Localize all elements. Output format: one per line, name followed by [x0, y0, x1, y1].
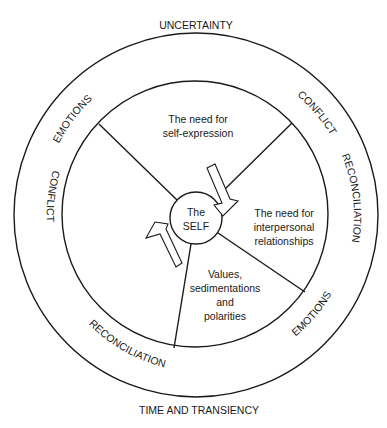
sector-values-sedimentations-polarities: Values, sedimentations and polarities: [190, 268, 261, 322]
svg-text:SELF: SELF: [183, 220, 209, 232]
svg-text:relationships: relationships: [255, 235, 314, 247]
svg-text:polarities: polarities: [204, 310, 246, 322]
self-model-diagram: UNCERTAINTY TIME AND TRANSIENCY EMOTIONS…: [0, 0, 387, 428]
sector-interpersonal-relationships: The need for interpersonal relationships: [254, 207, 315, 247]
ring-label-emotions-bottom-right: EMOTIONS: [289, 289, 333, 338]
svg-text:The need for: The need for: [168, 113, 228, 125]
divider-top-right: [224, 123, 292, 190]
ring-label-reconciliation-bottom: RECONCILIATION: [87, 317, 167, 370]
svg-text:Values,: Values,: [208, 268, 242, 280]
svg-text:and: and: [216, 296, 234, 308]
svg-text:The need for: The need for: [254, 207, 314, 219]
arrow-outward-icon: [146, 222, 182, 267]
self-label: The SELF: [183, 206, 209, 232]
ring-label-reconciliation-right: RECONCILIATION: [340, 152, 364, 244]
svg-text:interpersonal: interpersonal: [254, 221, 315, 233]
label-uncertainty: UNCERTAINTY: [159, 19, 233, 31]
label-time-and-transiency: TIME AND TRANSIENCY: [139, 404, 259, 416]
self-circle: [170, 192, 222, 244]
sector-self-expression: The need for self-expression: [163, 113, 234, 139]
arrow-inward-icon: [207, 164, 238, 216]
svg-text:sedimentations: sedimentations: [190, 282, 261, 294]
svg-text:self-expression: self-expression: [163, 127, 234, 139]
svg-text:The: The: [187, 206, 205, 218]
ring-label-conflict-left: CONFLICT: [45, 170, 63, 223]
